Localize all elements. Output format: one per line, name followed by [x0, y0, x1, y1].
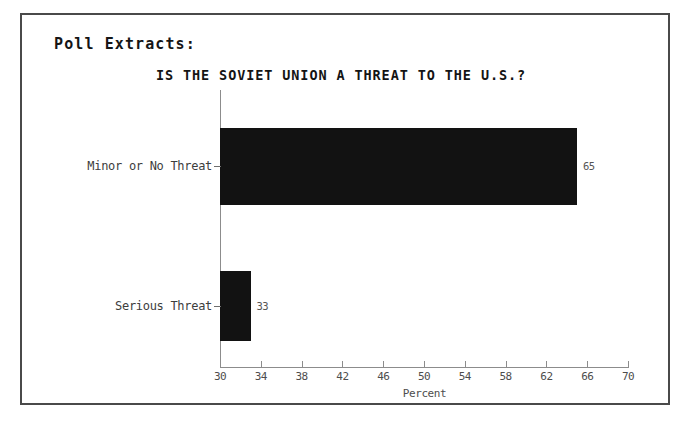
x-tick-label-70: 70: [622, 370, 634, 383]
bar-1: [220, 128, 577, 205]
x-tick-34: [261, 361, 262, 367]
x-tick-58: [506, 361, 507, 367]
x-tick-30: [220, 361, 221, 367]
x-axis-title: Percent: [220, 387, 629, 400]
x-tick-label-62: 62: [540, 370, 552, 383]
x-tick-label-50: 50: [418, 370, 430, 383]
x-tick-70: [628, 361, 629, 367]
x-tick-label-34: 34: [255, 370, 267, 383]
x-tick-label-42: 42: [336, 370, 348, 383]
x-tick-66: [587, 361, 588, 367]
x-tick-38: [302, 361, 303, 367]
x-tick-label-30: 30: [214, 370, 226, 383]
bar-2: [220, 271, 251, 341]
category-label-1: Minor or No Threat: [22, 159, 212, 173]
x-tick-50: [424, 361, 425, 367]
bar-value-label-2: 33: [257, 300, 268, 312]
category-label-2: Serious Threat: [22, 299, 212, 313]
category-tick-1: [214, 166, 221, 167]
x-tick-46: [383, 361, 384, 367]
x-tick-54: [465, 361, 466, 367]
x-tick-label-66: 66: [581, 370, 593, 383]
category-tick-2: [214, 306, 221, 307]
bar-chart-plot-area: 3034384246505458626670 Minor or No Threa…: [22, 15, 672, 407]
x-tick-42: [342, 361, 343, 367]
x-tick-label-38: 38: [296, 370, 308, 383]
x-tick-label-54: 54: [459, 370, 471, 383]
x-tick-62: [546, 361, 547, 367]
document-page-frame: Poll Extracts: IS THE SOVIET UNION A THR…: [20, 13, 670, 405]
x-tick-label-58: 58: [500, 370, 512, 383]
x-axis-line: [220, 367, 629, 368]
x-tick-label-46: 46: [377, 370, 389, 383]
bar-value-label-1: 65: [583, 160, 594, 172]
